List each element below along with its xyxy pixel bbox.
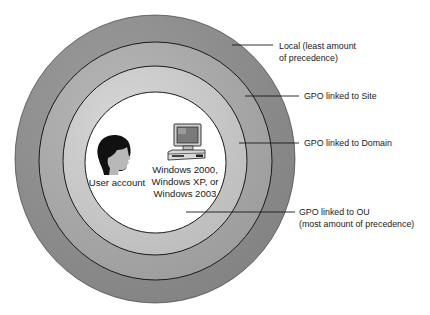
label-site: GPO linked to Site xyxy=(304,90,377,102)
label-domain: GPO linked to Domain xyxy=(304,137,392,149)
os-line-3: Windows 2003 xyxy=(150,188,220,200)
computer-os-label: Windows 2000, Windows XP, or Windows 200… xyxy=(150,164,220,200)
user-account-label: User account xyxy=(88,177,146,189)
computer-icon xyxy=(168,124,205,160)
os-line-1: Windows 2000, xyxy=(150,164,220,176)
precedence-diagram xyxy=(0,0,430,315)
label-ou: GPO linked to OU (most amount of precede… xyxy=(299,206,414,230)
os-line-2: Windows XP, or xyxy=(150,176,220,188)
user-head-icon xyxy=(97,135,131,175)
label-local: Local (least amount of precedence) xyxy=(279,40,356,64)
